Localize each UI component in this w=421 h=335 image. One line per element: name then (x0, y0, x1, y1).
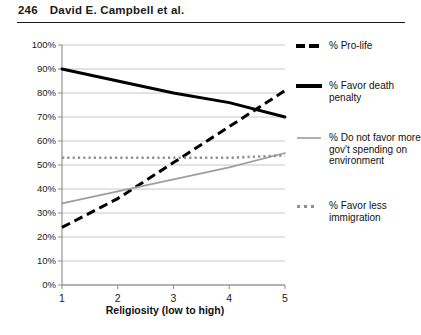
series-line (62, 155, 285, 157)
header-rule (17, 22, 405, 23)
legend-item-label: % Favor death penalty (329, 80, 421, 103)
solid-line-marker-glyph (296, 84, 322, 88)
y-axis-tick-label: 10% (16, 256, 56, 266)
legend-item: % Favor less immigration (296, 200, 421, 223)
legend-item: % Favor death penalty (296, 80, 421, 103)
dashed-line-marker-glyph (296, 44, 322, 48)
x-axis-tick-label: 1 (50, 293, 74, 304)
x-axis-tick-label: 3 (162, 293, 186, 304)
solid-line-marker (296, 80, 322, 92)
y-axis-tick-label: 30% (16, 208, 56, 218)
y-axis-tick-label: 80% (16, 88, 56, 98)
legend-item-label: % Pro-life (329, 40, 372, 52)
legend-item: % Do not favor more gov't spending on en… (296, 132, 421, 167)
dashed-line-marker (296, 40, 322, 52)
y-axis-tick-label: 0% (16, 280, 56, 290)
dotted-line-marker (296, 200, 322, 212)
page-running-head: 246 David E. Campbell et al. (0, 0, 421, 30)
page-number: 246 (18, 4, 38, 16)
y-axis-tick-label: 70% (16, 112, 56, 122)
x-axis-tick-label: 5 (273, 293, 297, 304)
thin-gray-line-marker-glyph (297, 137, 321, 139)
y-axis-tick-label: 40% (16, 184, 56, 194)
y-axis-tick-label: 60% (16, 136, 56, 146)
legend-item-label: % Favor less immigration (329, 200, 421, 223)
legend-item-label: % Do not favor more gov't spending on en… (329, 132, 421, 167)
author-running-head: David E. Campbell et al. (50, 4, 185, 16)
running-head-row: 246 David E. Campbell et al. (18, 4, 184, 16)
series-line (62, 153, 285, 203)
y-axis-tick-label: 90% (16, 64, 56, 74)
y-axis-tick-label: 50% (16, 160, 56, 170)
figure-line-chart: 0%10%20%30%40%50%60%70%80%90%100% 12345 … (0, 30, 421, 335)
dotted-line-marker-glyph (297, 205, 321, 208)
x-axis-title: Religiosity (low to high) (40, 304, 290, 316)
x-axis-tick-label: 4 (217, 293, 241, 304)
thin-gray-line-marker (296, 132, 322, 144)
x-axis-tick-label: 2 (106, 293, 130, 304)
y-axis-tick-label: 100% (16, 40, 56, 50)
y-axis-tick-label: 20% (16, 232, 56, 242)
chart-plot-area (0, 30, 421, 335)
legend-item: % Pro-life (296, 40, 372, 52)
